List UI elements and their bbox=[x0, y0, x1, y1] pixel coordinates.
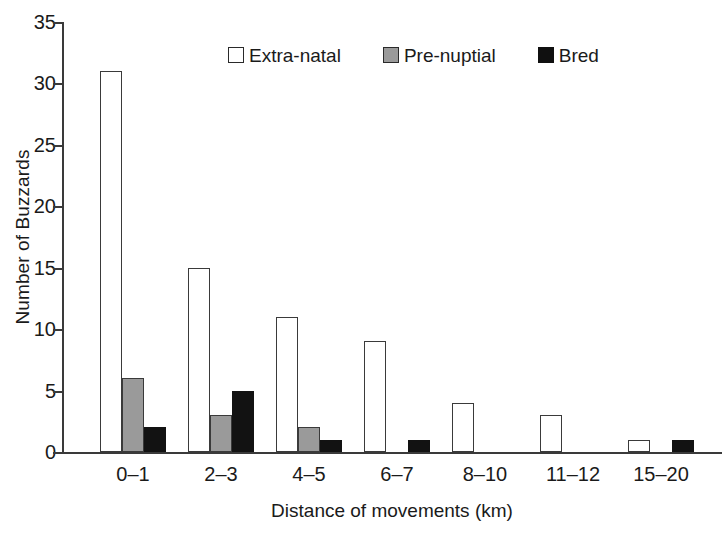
y-axis-tick-label: 0 bbox=[22, 442, 56, 462]
plot-area bbox=[62, 22, 722, 452]
x-axis-tick-label: 0–1 bbox=[116, 462, 149, 486]
legend-item-pre-nuptial: Pre-nuptial bbox=[383, 46, 496, 65]
bar-extra-natal-2-3 bbox=[188, 268, 210, 452]
x-axis-tick-label: 6–7 bbox=[380, 462, 413, 486]
legend-item-label: Extra-natal bbox=[249, 46, 341, 65]
x-axis-tick-label: 2–3 bbox=[204, 462, 237, 486]
bar-bred-0-1 bbox=[144, 427, 166, 452]
y-axis-tick-mark bbox=[53, 145, 62, 147]
bar-bred-15-20 bbox=[672, 440, 694, 452]
y-axis-tick-label: 25 bbox=[22, 135, 56, 155]
bar-extra-natal-6-7 bbox=[364, 341, 386, 452]
x-axis-tick-label: 4–5 bbox=[292, 462, 325, 486]
x-axis-line bbox=[62, 452, 722, 454]
legend-item-bred: Bred bbox=[538, 46, 599, 65]
bar-pre-nuptial-2-3 bbox=[210, 415, 232, 452]
y-axis-tick-label: 20 bbox=[22, 196, 56, 216]
y-axis-tick-label: 5 bbox=[22, 381, 56, 401]
bar-pre-nuptial-4-5 bbox=[298, 427, 320, 452]
bar-extra-natal-15-20 bbox=[628, 440, 650, 452]
y-axis-tick-mark bbox=[53, 83, 62, 85]
y-axis-tick-label: 30 bbox=[22, 73, 56, 93]
legend-item-label: Pre-nuptial bbox=[404, 46, 496, 65]
bar-pre-nuptial-0-1 bbox=[122, 378, 144, 452]
filled-square-swatch bbox=[538, 47, 554, 63]
bar-bred-6-7 bbox=[408, 440, 430, 452]
legend-item-label: Bred bbox=[559, 46, 599, 65]
x-axis-tick-label: 8–10 bbox=[463, 462, 508, 486]
y-axis-tick-label: 35 bbox=[22, 12, 56, 32]
y-axis-tick-mark bbox=[53, 329, 62, 331]
bar-extra-natal-4-5 bbox=[276, 317, 298, 452]
open-square-swatch bbox=[228, 47, 244, 63]
gray-square-swatch bbox=[383, 47, 399, 63]
bar-bred-2-3 bbox=[232, 391, 254, 452]
bar-extra-natal-11-12 bbox=[540, 415, 562, 452]
y-axis-tick-mark bbox=[53, 22, 62, 24]
bar-bred-4-5 bbox=[320, 440, 342, 452]
bars-layer bbox=[62, 22, 722, 452]
y-axis-tick-mark bbox=[53, 391, 62, 393]
y-axis-tick-label: 15 bbox=[22, 258, 56, 278]
x-axis-tick-label-group: 0–12–34–56–78–1011–1215–20 bbox=[62, 462, 722, 492]
bar-extra-natal-0-1 bbox=[100, 71, 122, 452]
legend-item-extra-natal: Extra-natal bbox=[228, 46, 341, 65]
x-axis-tick-label: 15–20 bbox=[633, 462, 689, 486]
y-axis-tick-mark bbox=[53, 452, 62, 454]
x-axis-title: Distance of movements (km) bbox=[62, 500, 722, 522]
y-axis-tick-label: 10 bbox=[22, 319, 56, 339]
chart-legend: Extra-natalPre-nuptialBred bbox=[228, 42, 599, 68]
x-axis-tick-label: 11–12 bbox=[546, 462, 600, 486]
bar-extra-natal-8-10 bbox=[452, 403, 474, 452]
y-axis-tick-label-group: 05101520253035 bbox=[0, 0, 56, 540]
y-axis-tick-mark bbox=[53, 206, 62, 208]
y-axis-tick-mark bbox=[53, 268, 62, 270]
bar-chart-figure: Number of Buzzards 05101520253035 0–12–3… bbox=[0, 0, 726, 540]
